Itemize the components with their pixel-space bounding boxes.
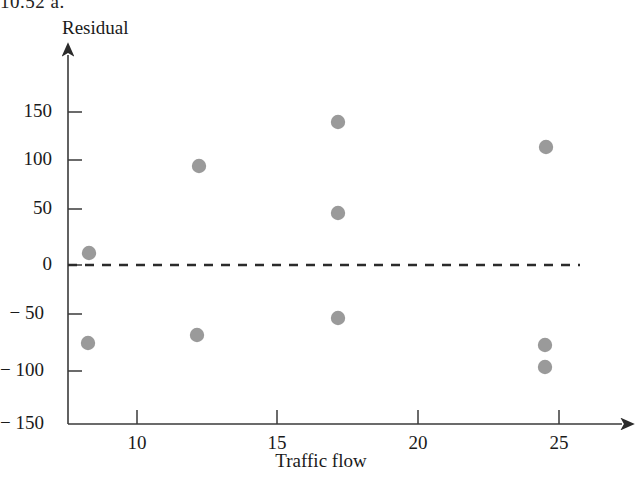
- residual-scatter-plot: 10.52 a. Residual: [0, 0, 642, 479]
- y-tick-label: − 50: [0, 302, 44, 324]
- data-point[interactable]: [82, 246, 96, 260]
- data-point-group: [81, 115, 553, 374]
- y-axis-ticks: [68, 112, 82, 371]
- data-point[interactable]: [331, 311, 345, 325]
- plot-canvas: [0, 0, 642, 479]
- y-tick-label: 50: [0, 197, 52, 219]
- y-tick-label: 0: [0, 253, 52, 275]
- y-tick-label: − 150: [0, 412, 44, 434]
- data-point[interactable]: [190, 328, 204, 342]
- y-tick-label: 150: [0, 100, 52, 122]
- data-point[interactable]: [192, 159, 206, 173]
- data-point[interactable]: [331, 115, 345, 129]
- y-tick-label: − 100: [0, 359, 44, 381]
- x-axis-ticks: [137, 410, 559, 424]
- y-tick-label: 100: [0, 148, 52, 170]
- x-axis-title: Traffic flow: [0, 450, 642, 472]
- data-point[interactable]: [538, 338, 552, 352]
- data-point[interactable]: [538, 360, 552, 374]
- data-point[interactable]: [81, 336, 95, 350]
- data-point[interactable]: [539, 140, 553, 154]
- data-point[interactable]: [331, 206, 345, 220]
